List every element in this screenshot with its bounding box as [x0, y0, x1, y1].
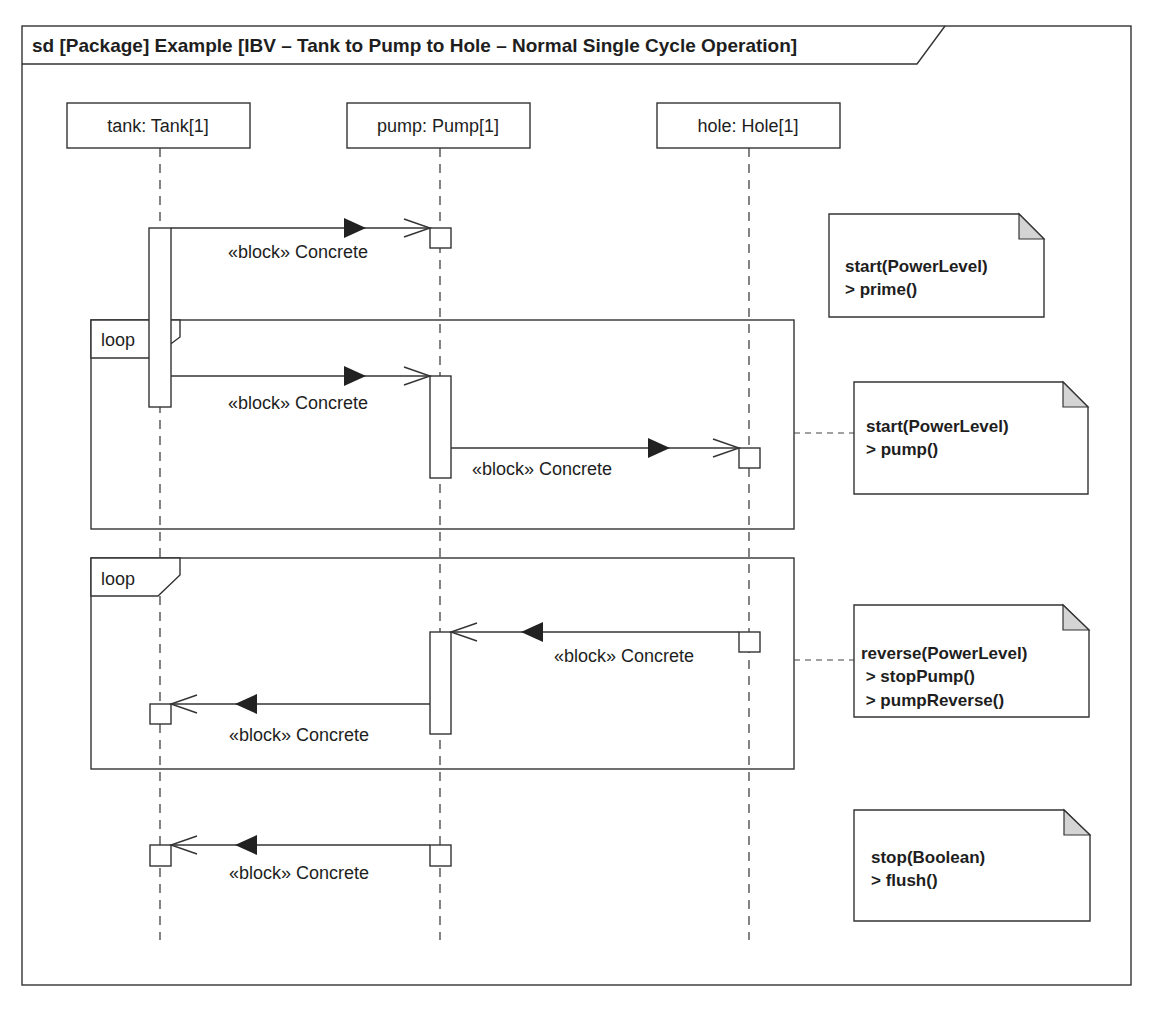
flow-direction-arrow-icon — [344, 366, 366, 386]
flow-direction-arrow-icon — [648, 438, 670, 458]
note-4-line-1: stop(Boolean) — [871, 848, 985, 867]
message-1[interactable]: «block» Concrete — [171, 218, 430, 262]
message-5-label: «block» Concrete — [229, 725, 369, 745]
note-1-line-1: start(PowerLevel) — [845, 257, 988, 276]
message-4[interactable]: «block» Concrete — [451, 622, 739, 666]
pump-activation-3 — [430, 632, 451, 734]
pump-activation-4 — [430, 845, 451, 866]
message-5[interactable]: «block» Concrete — [171, 694, 430, 745]
note-3-line-2: > stopPump() — [861, 667, 975, 686]
message-6-label: «block» Concrete — [229, 863, 369, 883]
tank-activation-2 — [150, 704, 171, 724]
lifeline-pump-label: pump: Pump[1] — [377, 116, 499, 136]
hole-activation-1 — [739, 448, 760, 468]
flow-direction-arrow-icon — [235, 694, 257, 714]
note-fold-icon — [1063, 605, 1089, 630]
tank-activation-1 — [149, 228, 171, 407]
note-3[interactable]: reverse(PowerLevel) > stopPump() > pumpR… — [794, 605, 1089, 717]
note-4-line-2: > flush() — [871, 871, 938, 890]
message-2-label: «block» Concrete — [228, 393, 368, 413]
message-6[interactable]: «block» Concrete — [171, 835, 430, 883]
hole-activation-2 — [739, 632, 760, 652]
note-3-line-1: reverse(PowerLevel) — [861, 644, 1027, 663]
pump-activation-2 — [430, 376, 451, 478]
flow-direction-arrow-icon — [235, 835, 257, 855]
note-4[interactable]: stop(Boolean) > flush() — [854, 810, 1090, 921]
message-3[interactable]: «block» Concrete — [451, 438, 739, 479]
diagram-title: sd [Package] Example [IBV – Tank to Pump… — [32, 35, 797, 56]
note-fold-icon — [1063, 382, 1088, 407]
lifeline-hole-label: hole: Hole[1] — [697, 116, 798, 136]
note-1[interactable]: start(PowerLevel) > prime() — [829, 214, 1044, 317]
lifeline-hole[interactable]: hole: Hole[1] — [657, 103, 840, 940]
note-2-line-2: > pump() — [866, 440, 938, 459]
note-fold-icon — [1064, 810, 1090, 835]
tank-activation-3 — [150, 845, 171, 866]
message-1-label: «block» Concrete — [228, 242, 368, 262]
loop-1-operator: loop — [101, 330, 135, 350]
flow-direction-arrow-icon — [344, 218, 366, 238]
message-3-label: «block» Concrete — [472, 459, 612, 479]
note-fold-icon — [1019, 214, 1044, 239]
message-2[interactable]: «block» Concrete — [171, 366, 430, 413]
note-3-line-3: > pumpReverse() — [861, 691, 1004, 710]
note-1-line-2: > prime() — [845, 280, 917, 299]
pump-activation-1 — [430, 228, 451, 248]
lifeline-tank-label: tank: Tank[1] — [107, 116, 209, 136]
loop-2-operator: loop — [101, 569, 135, 589]
message-4-label: «block» Concrete — [554, 646, 694, 666]
flow-direction-arrow-icon — [521, 622, 543, 642]
sequence-diagram: sd [Package] Example [IBV – Tank to Pump… — [0, 0, 1157, 1015]
note-2[interactable]: start(PowerLevel) > pump() — [794, 382, 1088, 494]
note-2-line-1: start(PowerLevel) — [866, 417, 1009, 436]
